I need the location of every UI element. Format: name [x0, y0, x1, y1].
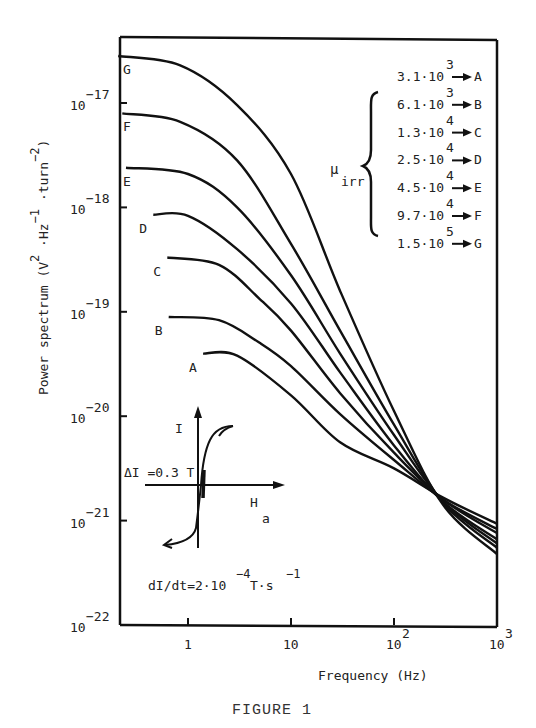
y-axis-ticks: 10−1710−1810−1910−2010−2110−22 [70, 87, 127, 635]
svg-text:10: 10 [70, 516, 86, 531]
x-tick-label: 103 [489, 626, 513, 652]
x-axis-label: Frequency (Hz) [318, 668, 428, 683]
y-tick-label: 10−20 [70, 400, 109, 426]
y-tick-label: 10−18 [70, 191, 109, 217]
svg-text:C: C [474, 125, 482, 140]
svg-text:3: 3 [505, 626, 513, 641]
arrow-right-icon [463, 129, 472, 137]
svg-text:μ: μ [330, 161, 339, 177]
svg-text:3: 3 [446, 85, 454, 100]
rate-annotation: dI/dt=2·10 −4 T·s −1 [148, 567, 300, 593]
svg-text:A: A [474, 69, 482, 84]
delta-i-annotation: ΔI =0.3 T [124, 465, 195, 480]
svg-text:1: 1 [184, 637, 192, 652]
svg-text:10: 10 [386, 637, 402, 652]
svg-text:−17: −17 [86, 87, 109, 102]
svg-text:10: 10 [489, 637, 505, 652]
legend: 3.1·103A6.1·103B1.3·104C2.5·104D4.5·104E… [397, 57, 482, 251]
arrow-right-icon [463, 73, 472, 81]
y-tick-label: 10−21 [70, 505, 109, 531]
svg-text:−20: −20 [86, 400, 109, 415]
svg-text:4: 4 [446, 168, 454, 183]
figure-caption: FIGURE 1 [232, 702, 312, 719]
svg-text:irr: irr [341, 174, 365, 189]
brace-icon [363, 92, 378, 236]
svg-text:9.7·10: 9.7·10 [397, 208, 444, 223]
curve-label-c: C [153, 264, 161, 279]
svg-text:D: D [474, 152, 482, 167]
curve-c [167, 258, 497, 534]
svg-text:6.1·10: 6.1·10 [397, 97, 444, 112]
svg-text:10: 10 [70, 202, 86, 217]
y-tick-label: 10−19 [70, 296, 109, 322]
power-spectrum-chart: 10−1710−1810−1910−2010−2110−22 110102103… [0, 0, 536, 728]
legend-title: μ irr [330, 161, 365, 189]
svg-text:2: 2 [402, 626, 410, 641]
svg-text:10: 10 [70, 411, 86, 426]
curve-a [203, 352, 497, 524]
svg-text:10: 10 [70, 98, 86, 113]
curve-label-b: B [155, 323, 163, 338]
inset-x-label: H [250, 495, 258, 510]
x-tick-label: 1 [184, 637, 192, 652]
svg-text:10: 10 [70, 307, 86, 322]
y-tick-label: 10−22 [70, 609, 109, 635]
svg-text:1.3·10: 1.3·10 [397, 125, 444, 140]
svg-text:−18: −18 [86, 191, 109, 206]
arrow-right-icon [463, 184, 472, 192]
arrow-right-icon [273, 481, 285, 489]
arrow-right-icon [463, 240, 472, 248]
svg-text:3: 3 [446, 57, 454, 72]
curve-f [122, 113, 497, 547]
inset-x-sub: a [262, 511, 270, 526]
svg-text:T·s: T·s [250, 578, 273, 593]
svg-text:−1: −1 [286, 567, 300, 581]
x-tick-label: 10 [283, 637, 299, 652]
svg-text:5: 5 [446, 224, 454, 239]
svg-text:−21: −21 [86, 505, 109, 520]
x-axis-ticks: 110102103 [184, 618, 513, 652]
legend-entry: 3.1·103A [397, 57, 482, 84]
curve-label-g: G [123, 62, 131, 77]
legend-entry: 4.5·104E [397, 168, 482, 195]
curve-labels: ABCDEFG [123, 62, 197, 375]
svg-text:−4: −4 [236, 567, 250, 581]
svg-text:10: 10 [283, 637, 299, 652]
svg-text:dI/dt=2·10: dI/dt=2·10 [148, 578, 226, 593]
legend-entry: 9.7·104F [397, 196, 482, 223]
curve-label-f: F [123, 119, 131, 134]
arrow-up-icon [194, 406, 202, 418]
curve-label-d: D [139, 221, 147, 236]
legend-entry: 1.5·105G [397, 224, 482, 251]
svg-text:4: 4 [446, 196, 454, 211]
curve-label-a: A [189, 360, 197, 375]
svg-text:2.5·10: 2.5·10 [397, 152, 444, 167]
curve-label-e: E [123, 174, 131, 189]
x-tick-label: 102 [386, 626, 410, 652]
legend-entry: 2.5·104D [397, 140, 482, 167]
svg-text:B: B [474, 97, 482, 112]
svg-text:G: G [474, 236, 482, 251]
svg-text:4: 4 [446, 140, 454, 155]
curve-b [169, 317, 497, 529]
legend-entry: 6.1·103B [397, 85, 482, 112]
svg-text:3.1·10: 3.1·10 [397, 69, 444, 84]
svg-text:−19: −19 [86, 296, 109, 311]
legend-entry: 1.3·104C [397, 113, 482, 140]
inset-y-label: I [175, 421, 183, 436]
arrow-right-icon [463, 212, 472, 220]
svg-text:F: F [474, 208, 482, 223]
arrow-right-icon [463, 101, 472, 109]
svg-text:−22: −22 [86, 609, 109, 624]
svg-text:10: 10 [70, 620, 86, 635]
arrow-right-icon [463, 156, 472, 164]
svg-text:E: E [474, 180, 482, 195]
y-axis-label: Power spectrum (V2 ·Hz−1 ·turn−2) [28, 140, 51, 395]
y-tick-label: 10−17 [70, 87, 109, 113]
svg-text:1.5·10: 1.5·10 [397, 236, 444, 251]
svg-text:4.5·10: 4.5·10 [397, 180, 444, 195]
svg-text:4: 4 [446, 113, 454, 128]
